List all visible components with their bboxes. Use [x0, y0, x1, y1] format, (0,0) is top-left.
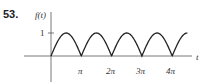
- curve: [51, 33, 187, 56]
- x-tick-label-2pi: 2π: [106, 66, 116, 76]
- plot: f(t) 1 t π 2π 3π 4π: [0, 0, 211, 84]
- x-tick-label-4pi: 4π: [166, 66, 176, 76]
- x-tick-label-pi: π: [78, 66, 83, 76]
- y-axis-label: f(t): [35, 10, 46, 20]
- y-tick-label: 1: [40, 28, 45, 38]
- x-tick-label-3pi: 3π: [135, 66, 146, 76]
- x-axis-label: t: [196, 52, 199, 62]
